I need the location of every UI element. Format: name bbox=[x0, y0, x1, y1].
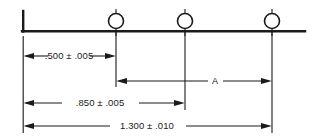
dim-1300-arrow-right-icon bbox=[261, 123, 272, 129]
dim-500-arrow-left-icon bbox=[24, 53, 35, 59]
dim-850-arrow-left-icon bbox=[24, 100, 35, 106]
dim-500-arrow-right-icon bbox=[105, 53, 116, 59]
dim-a-arrow-left-icon bbox=[116, 78, 127, 84]
engineering-drawing: .500 ± .005 A .850 ± .005 1.300 ± .010 bbox=[0, 0, 314, 138]
dim-1300-arrow-left-icon bbox=[24, 123, 35, 129]
hole-3-circle bbox=[265, 14, 280, 29]
dim-1300-text: 1.300 ± .010 bbox=[120, 120, 174, 131]
dim-a-arrow-right-icon bbox=[261, 78, 272, 84]
dimension-a: A bbox=[116, 76, 272, 86]
hole-1-circle bbox=[109, 14, 124, 29]
dimension-850: .850 ± .005 bbox=[24, 97, 185, 108]
dim-850-arrow-right-icon bbox=[174, 100, 185, 106]
hole-group bbox=[109, 14, 280, 29]
part-outline bbox=[22, 11, 305, 32]
extension-lines bbox=[23, 31, 272, 133]
dimension-1300: 1.300 ± .010 bbox=[24, 120, 272, 131]
dim-850-text: .850 ± .005 bbox=[76, 97, 125, 108]
dim-500-text: .500 ± .005 bbox=[45, 50, 94, 61]
drawing-canvas: .500 ± .005 A .850 ± .005 1.300 ± .010 bbox=[0, 0, 314, 138]
dim-a-text: A bbox=[212, 76, 218, 86]
hole-2-circle bbox=[178, 14, 193, 29]
dimension-500: .500 ± .005 bbox=[24, 50, 116, 61]
